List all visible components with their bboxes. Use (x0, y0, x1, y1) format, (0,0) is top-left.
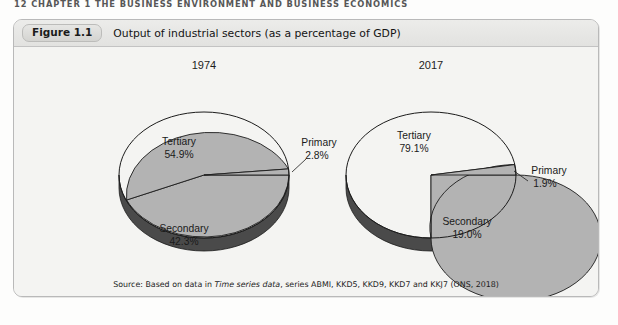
pie-title-1974: 1974 (192, 59, 216, 71)
source-prefix: Source: Based on data in (113, 280, 214, 289)
figure-number-badge: Figure 1.1 (22, 24, 102, 42)
figure-caption-text: Output of industrial sectors (as a perce… (113, 27, 400, 40)
label-1974-primary-name: Primary (301, 137, 337, 148)
pie-1974-top (119, 112, 289, 238)
figure-source-note: Source: Based on data in Time series dat… (14, 280, 598, 289)
label-1974-primary-value: 2.8% (305, 150, 328, 161)
label-2017-tertiary-name: Tertiary (397, 130, 432, 141)
source-suffix: , series ABMI, KKD5, KKD9, KKD7 and KKJ7… (280, 280, 499, 289)
pie-charts-figure: 1974 Tertiary 54.9% (14, 47, 599, 297)
label-2017-secondary-name: Secondary (442, 216, 492, 227)
figure-body: 1974 Tertiary 54.9% (14, 47, 598, 296)
figure-panel: Figure 1.1 Output of industrial sectors … (13, 19, 599, 297)
label-2017-secondary-value: 19.0% (452, 229, 481, 240)
label-1974-tertiary-value: 54.9% (164, 149, 193, 160)
label-1974-secondary-name: Secondary (159, 223, 209, 234)
pie-title-2017: 2017 (419, 59, 443, 71)
label-2017-primary-value: 1.9% (533, 178, 556, 189)
pie-2017-top (346, 112, 599, 297)
label-2017-tertiary-value: 79.1% (399, 143, 428, 154)
leader-1974-primary (292, 159, 306, 172)
slice-2017-primary (431, 165, 516, 175)
running-head: 12 CHAPTER 1 THE BUSINESS ENVIRONMENT AN… (14, 0, 408, 11)
pie-chart-1974: 1974 Tertiary 54.9% (119, 59, 338, 251)
label-1974-tertiary-name: Tertiary (162, 136, 197, 147)
source-italic-title: Time series data (214, 280, 280, 289)
figure-caption-bar: Figure 1.1 Output of industrial sectors … (14, 20, 598, 47)
label-2017-primary-name: Primary (531, 165, 567, 176)
label-1974-secondary-value: 42.3% (169, 236, 198, 247)
pie-chart-2017: 2017 Tertiary 79.1% Secondary 19.0% (346, 59, 599, 297)
